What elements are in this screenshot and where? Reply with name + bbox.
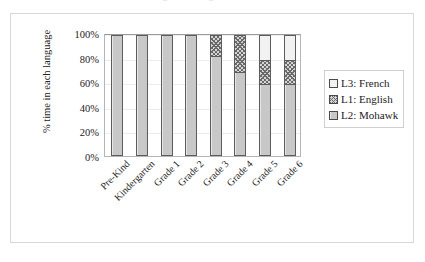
legend-item[interactable]: L2: Mohawk [329, 107, 398, 123]
legend-label: L2: Mohawk [341, 109, 398, 121]
stacked-bar[interactable] [284, 35, 296, 156]
x-axis-tick-label: Grade 2 [176, 158, 206, 188]
stacked-bar[interactable] [111, 35, 123, 156]
bar-column[interactable] [284, 35, 296, 156]
plot-area [104, 34, 301, 157]
cut-text-fragment: g [163, 0, 168, 1]
bar-column[interactable] [259, 35, 271, 156]
bar-segment[interactable] [235, 36, 245, 72]
x-axis-tick-label: Grade 4 [225, 158, 255, 188]
y-axis-title: % time in each language [41, 18, 52, 146]
stacked-bar[interactable] [161, 35, 173, 156]
chart-figure: % time in each language 0%20%40%60%80%10… [10, 13, 414, 243]
y-axis-tick-label: 20% [61, 127, 99, 138]
x-axis-tick-label: Grade 6 [274, 158, 304, 188]
bar-column[interactable] [136, 35, 148, 156]
bar-segment[interactable] [211, 56, 221, 155]
stacked-bar[interactable] [136, 35, 148, 156]
y-axis-tick-labels: 0%20%40%60%80%100% [59, 34, 99, 157]
bar-segment[interactable] [162, 36, 172, 155]
bar-column[interactable] [161, 35, 173, 156]
bar-segment[interactable] [112, 36, 122, 155]
bar-column[interactable] [210, 35, 222, 156]
y-axis-tick-label: 0% [61, 152, 99, 163]
x-axis-tick-labels: Pre-KindKindergartenGrade 1Grade 2Grade … [104, 158, 344, 238]
bar-segment[interactable] [260, 60, 270, 84]
cut-text-fragment: a [24, 0, 28, 1]
cropped-text-above-figure: a g g [0, 0, 425, 11]
cut-text-fragment: g [209, 0, 214, 1]
legend-item[interactable]: L1: English [329, 91, 398, 107]
legend-swatch-icon [329, 79, 338, 88]
bar-segment[interactable] [186, 36, 196, 155]
y-axis-tick-label: 100% [61, 29, 99, 40]
x-axis-tick-label: Grade 5 [249, 158, 279, 188]
bar-column[interactable] [234, 35, 246, 156]
bar-column[interactable] [111, 35, 123, 156]
bar-series-group [105, 35, 300, 156]
legend-label: L1: English [341, 93, 393, 105]
bar-segment[interactable] [235, 72, 245, 155]
bar-segment[interactable] [137, 36, 147, 155]
legend-swatch-icon [329, 95, 338, 104]
bar-segment[interactable] [285, 36, 295, 60]
stacked-bar[interactable] [234, 35, 246, 156]
stacked-bar[interactable] [259, 35, 271, 156]
x-axis-tick-label: Grade 1 [151, 158, 181, 188]
legend-swatch-icon [329, 111, 338, 120]
chart-legend: L3: FrenchL1: EnglishL2: Mohawk [324, 70, 404, 128]
bar-segment[interactable] [260, 36, 270, 60]
legend-label: L3: French [341, 77, 390, 89]
bar-segment[interactable] [260, 84, 270, 155]
bar-segment[interactable] [211, 36, 221, 56]
x-axis-tick-label: Grade 3 [200, 158, 230, 188]
y-axis-tick-label: 40% [61, 102, 99, 113]
legend-item[interactable]: L3: French [329, 75, 398, 91]
stacked-bar[interactable] [185, 35, 197, 156]
y-axis-tick-label: 80% [61, 53, 99, 64]
bar-segment[interactable] [285, 60, 295, 84]
bar-column[interactable] [185, 35, 197, 156]
bar-segment[interactable] [285, 84, 295, 155]
y-axis-tick-label: 60% [61, 78, 99, 89]
stacked-bar[interactable] [210, 35, 222, 156]
